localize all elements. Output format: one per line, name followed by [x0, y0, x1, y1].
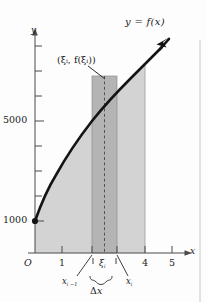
y-tick-label-1000: 1000 — [3, 215, 27, 225]
x-tick-label-1: 1 — [59, 258, 65, 268]
x-tick-label-4: 4 — [142, 258, 148, 268]
x-tick-label-5: 5 — [169, 258, 175, 268]
x-right-label: xi — [126, 277, 132, 286]
leader-line-x-right — [117, 255, 128, 276]
curve-equation-label: y = f(x) — [125, 17, 165, 27]
curve-start-dot — [32, 218, 38, 224]
x-left-subscript: i −1 — [67, 281, 78, 287]
delta-x-label: Δx — [90, 286, 102, 296]
riemann-sum-figure: y x O y = f(x) (ξᵢ, f(ξᵢ)) 5000 1000 1 4… — [0, 0, 207, 302]
delta-symbol: Δ — [90, 285, 97, 296]
x-axis-label: x — [190, 247, 195, 256]
y-axis-label: y — [31, 26, 36, 35]
x-left-label: xi −1 — [62, 277, 77, 286]
leader-line-x-left — [77, 255, 92, 276]
xi-subscript: i — [104, 263, 106, 269]
y-axis-ticks — [35, 46, 44, 221]
xi-label: ξi — [99, 259, 106, 268]
shaded-area-under-curve — [35, 65, 145, 253]
point-coordinate-label: (ξᵢ, f(ξᵢ)) — [57, 55, 96, 65]
origin-label: O — [24, 258, 32, 268]
delta-x-variable: x — [97, 285, 102, 296]
y-tick-label-5000: 5000 — [3, 115, 27, 125]
delta-x-brace — [90, 276, 112, 285]
